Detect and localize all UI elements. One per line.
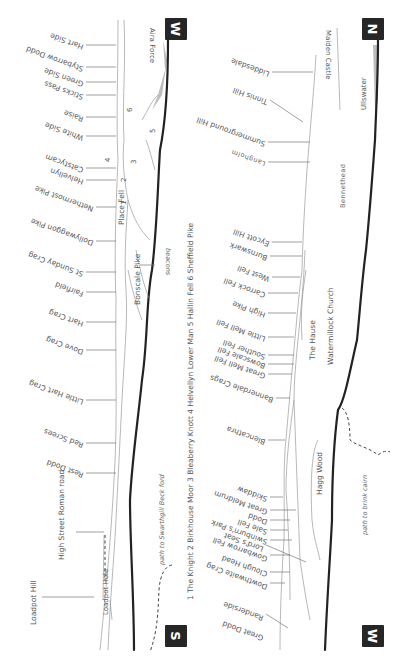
- label-st-sunday-crag: St Sunday Crag: [27, 250, 85, 278]
- label-fairfield: Fairfield: [54, 280, 85, 299]
- label-nethermost-pike: Nethermost Pike: [33, 184, 94, 214]
- label-maiden-castle: Maiden Castle: [324, 30, 332, 80]
- left-peak-labels: Hart Side Stybarrow Dodd Green Side Stic…: [25, 31, 95, 625]
- label-beacons: beacons: [164, 248, 172, 276]
- right-peak-labels: Liddesdale Tinnis Hill Summerground Hill…: [195, 56, 274, 642]
- label-loadpot-hill: Loadpot Hill: [29, 580, 38, 625]
- compass-w-bottom: W: [362, 625, 384, 647]
- label-path-brink: path to brink cairn: [361, 475, 369, 536]
- label-white-side: White Side: [43, 120, 84, 142]
- label-loadpot-hole: Loadpot Hole: [102, 569, 110, 615]
- ridge-2: [108, 20, 128, 650]
- label-langholm: Langholm: [230, 148, 267, 168]
- svg-text:N: N: [365, 24, 380, 35]
- label-watermillock-church: Watermillock Church: [326, 287, 335, 365]
- right-panel: Liddesdale Tinnis Hill Summerground Hill…: [195, 28, 390, 650]
- right-leaders: [266, 72, 313, 628]
- svg-text:6: 6: [126, 107, 134, 112]
- ridge-skyline: [100, 20, 118, 650]
- label-aira-force: Aira Force: [148, 28, 156, 63]
- svg-text:S: S: [168, 631, 183, 640]
- svg-text:4: 4: [104, 157, 112, 162]
- svg-text:1: 1: [120, 201, 128, 205]
- label-west-fell: West Fell: [236, 264, 271, 284]
- svg-text:5: 5: [149, 129, 157, 133]
- label-randerside: Randerside: [222, 600, 265, 623]
- label-little-hart-crag: Little Hart Crag: [27, 378, 84, 406]
- label-blencathra: Blencathra: [225, 424, 266, 446]
- label-hart-crag: Hart Crag: [47, 308, 84, 329]
- label-liddesdale: Liddesdale: [229, 56, 270, 78]
- svg-text:W: W: [365, 629, 380, 643]
- panorama-diagram: Hart Side Stybarrow Dodd Green Side Stic…: [0, 0, 411, 663]
- ridge-maiden: [337, 28, 340, 110]
- label-great-dodd: Great Dodd: [221, 619, 265, 642]
- compass-s: S: [165, 625, 187, 647]
- label-path-swarthgill: path to Swarthgill Beck ford: [158, 473, 166, 566]
- key-legend: 1 The Knight 2 Birkhouse Moor 3 Bleaberr…: [186, 223, 195, 600]
- label-bennethead: Bennethead: [339, 164, 347, 208]
- svg-text:W: W: [168, 22, 183, 36]
- label-red-screes: Red Screes: [42, 427, 84, 450]
- label-raise: Raise: [62, 108, 84, 124]
- path-brink-dashed: [342, 408, 390, 455]
- label-place-fell: Place Fell: [117, 190, 126, 225]
- label-high-pike: High Pike: [231, 299, 267, 319]
- label-the-hause: The Hause: [308, 320, 317, 361]
- label-ullswater: Ullswater: [360, 77, 368, 110]
- label-dollywaggon-pike: Dollywaggon Pike: [29, 216, 95, 247]
- label-summerground-hill: Summerground Hill: [195, 115, 266, 148]
- compass-n: N: [362, 18, 384, 40]
- svg-text:3: 3: [130, 160, 138, 164]
- label-high-street: High Street Roman road: [57, 470, 66, 560]
- compass-w-top: W: [165, 18, 187, 40]
- label-tinnis-hill: Tinnis Hill: [232, 86, 270, 107]
- label-hart-side: Hart Side: [48, 31, 84, 52]
- label-dove-crag: Dove Crag: [44, 335, 84, 357]
- left-panel: Hart Side Stybarrow Dodd Green Side Stic…: [25, 20, 172, 652]
- svg-text:2: 2: [120, 178, 128, 182]
- label-bonscale-pike: Bonscale Pike: [133, 253, 142, 305]
- label-hagg-wood: Hagg Wood: [315, 452, 324, 495]
- ridge-numbers: 6 5 4 3 2 1: [104, 107, 157, 205]
- label-little-mell-fell: Little Mell Fell: [215, 317, 267, 343]
